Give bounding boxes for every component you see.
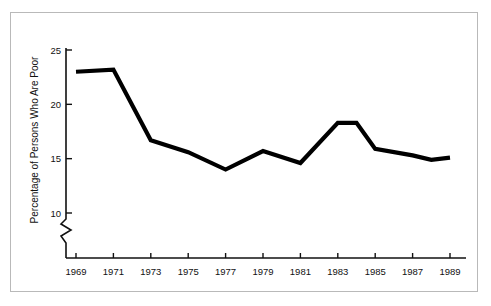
x-axis-tick-label: 1985: [365, 266, 386, 277]
data-series-line: [76, 70, 450, 170]
x-axis-tick-label: 1977: [215, 266, 236, 277]
y-axis-title: Percentage of Persons Who Are Poor: [29, 56, 40, 223]
y-axis-tick-label: 15: [50, 153, 61, 164]
x-axis-tick-label: 1975: [178, 266, 199, 277]
x-axis-tick-label: 1969: [65, 266, 86, 277]
x-axis-tick-label: 1981: [290, 266, 311, 277]
line-chart: 1015202519691971197319751977197919811983…: [0, 0, 491, 306]
x-axis-tick-label: 1987: [402, 266, 423, 277]
x-axis-tick-label: 1983: [327, 266, 348, 277]
x-axis-tick-label: 1971: [103, 266, 124, 277]
y-axis-tick-label: 10: [50, 208, 61, 219]
x-axis-tick-label: 1973: [140, 266, 161, 277]
y-axis-tick-label: 25: [50, 45, 61, 56]
chart-figure: 1015202519691971197319751977197919811983…: [0, 0, 491, 306]
y-axis-line: [61, 48, 71, 258]
y-axis-tick-label: 20: [50, 99, 61, 110]
x-axis-tick-label: 1989: [439, 266, 460, 277]
x-axis-tick-label: 1979: [252, 266, 273, 277]
